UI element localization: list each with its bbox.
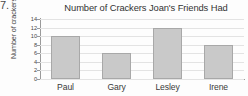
plot-area — [40, 19, 244, 79]
bar-lesley — [153, 28, 181, 79]
y-axis-tick-mark — [37, 79, 40, 80]
y-axis-tick-mark — [37, 62, 40, 63]
x-axis-label-lesley: Lesley — [142, 81, 193, 93]
x-axis-label-irene: Irene — [193, 81, 244, 93]
bar-irene — [204, 45, 232, 79]
problem-number: 7. — [0, 0, 9, 11]
y-axis-label: Number of crackers — [10, 0, 18, 59]
gridline — [40, 28, 244, 29]
gridline — [40, 19, 244, 20]
bar-gary — [102, 53, 130, 79]
y-axis-tick-mark — [37, 45, 40, 46]
y-axis-tick-label: 0 — [22, 76, 37, 82]
y-axis-tick-label: 4 — [22, 59, 37, 65]
y-axis-tick-label: 12 — [22, 25, 37, 31]
y-axis-tick-label: 8 — [22, 42, 37, 48]
y-axis-tick-label: 14 — [22, 16, 37, 22]
y-axis-tick-mark — [37, 70, 40, 71]
worksheet-chart-screenshot: 7. Number of Crackers Joan's Friends Had… — [0, 0, 248, 96]
x-axis-category-labels: PaulGaryLesleyIrene — [40, 80, 244, 96]
y-axis-tick-label: 10 — [22, 33, 37, 39]
x-axis-label-gary: Gary — [91, 81, 142, 93]
y-axis-tick-labels: 02468101214 — [22, 15, 37, 83]
y-axis-tick-label: 2 — [22, 67, 37, 73]
y-axis-tick-mark — [37, 19, 40, 20]
y-axis-tick-mark — [37, 53, 40, 54]
x-axis-label-paul: Paul — [40, 81, 91, 93]
y-axis-tick-mark — [37, 28, 40, 29]
y-axis-tick-mark — [37, 36, 40, 37]
chart-title: Number of Crackers Joan's Friends Had — [44, 2, 248, 14]
y-axis-tick-label: 6 — [22, 50, 37, 56]
bar-paul — [51, 36, 79, 79]
